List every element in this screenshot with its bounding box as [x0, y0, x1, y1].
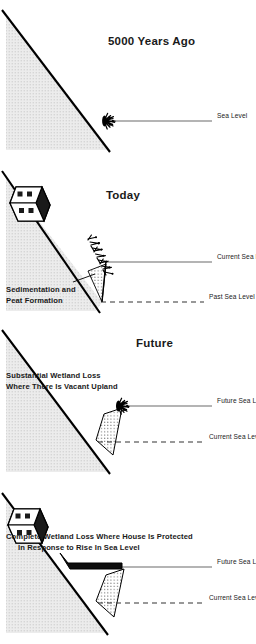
bulkhead-shore-protection [60, 553, 122, 569]
legend-label-current-sea-level: Current Sea Level [217, 253, 256, 260]
panel-future-protected-svg: Complete Wetland Loss Where House Is Pro… [0, 483, 256, 644]
legend-label-sea-level: Sea Level [217, 112, 248, 119]
caption-sedimentation-line2: Peat Formation [6, 296, 63, 305]
drowned-peat-wedge [96, 569, 124, 617]
caption-sedimentation-line1: Sedimentation and [6, 285, 76, 294]
legend-label-current-sea-level: Current Sea Level [209, 594, 256, 601]
panel-today: Sedimentation and Peat Formation Current… [0, 161, 256, 322]
panel-future-vacant: Substantial Wetland Loss Where There Is … [0, 322, 256, 483]
panel-title-future: Future [136, 337, 173, 349]
legend-label-future-sea-level: Future Sea Level [217, 397, 256, 404]
legend-label-past-sea-level: Past Sea Level [209, 293, 255, 300]
house-icon [10, 187, 50, 221]
panel-past: Sea Level 5000 Years Ago [0, 0, 256, 161]
caption-protected-line1: Complete Wetland Loss Where House Is Pro… [6, 532, 193, 541]
caption-vacant-line1: Substantial Wetland Loss [6, 371, 101, 380]
caption-vacant-line2: Where There Is Vacant Upland [6, 382, 118, 391]
drowned-peat-wedge [96, 408, 122, 455]
caption-protected-line2: In Response to Rise In Sea Level [18, 543, 140, 552]
marsh-vegetation [102, 113, 115, 129]
legend-label-current-sea-level: Current Sea Level [209, 433, 256, 440]
panel-past-svg: Sea Level 5000 Years Ago [0, 0, 256, 161]
panel-future-protected: Complete Wetland Loss Where House Is Pro… [0, 483, 256, 644]
panel-title-past: 5000 Years Ago [108, 35, 195, 47]
panel-title-today: Today [106, 189, 140, 201]
figure-canvas: Sea Level 5000 Years Ago [0, 0, 256, 644]
panel-today-svg: Sedimentation and Peat Formation Current… [0, 161, 256, 322]
panel-future-vacant-svg: Substantial Wetland Loss Where There Is … [0, 322, 256, 483]
legend-label-future-sea-level: Future Sea Level [217, 558, 256, 565]
sea-level-rise-figure: Sea Level 5000 Years Ago [0, 0, 256, 644]
